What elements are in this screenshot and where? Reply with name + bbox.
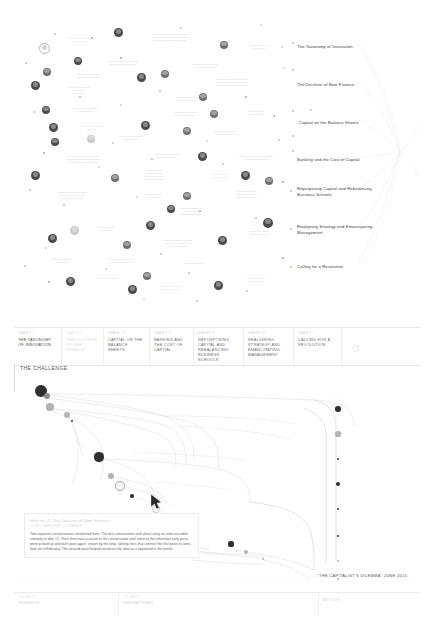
category-tick <box>290 228 292 230</box>
scatter-dot <box>112 142 114 144</box>
quote-snippet: •••• ••••••• ••••••••••••• •••••••• ••••… <box>225 277 287 283</box>
chart-node[interactable] <box>130 494 134 498</box>
avatar[interactable] <box>146 221 155 230</box>
category-label-taxonomy[interactable]: The Taxonomy of Innovation <box>297 44 377 50</box>
avatar[interactable] <box>31 171 40 180</box>
avatar[interactable] <box>265 177 273 185</box>
tab-label: Realigning Strategy and Emancipating Man… <box>248 337 289 357</box>
tab-idea-2[interactable]: Idea no. 2 The Doctrine of New Finance <box>62 328 104 365</box>
avatar[interactable] <box>123 241 131 249</box>
category-label-new-finance[interactable]: The Doctrine of New Finance <box>297 82 377 88</box>
quote-snippet: •••• ••• •••••••• •• •••••••••••• ••• ••… <box>215 190 277 199</box>
avatar[interactable] <box>183 127 191 135</box>
scatter-dot <box>206 140 208 142</box>
footer-column-seminar-ideas[interactable]: Column 02 Seminar ideas <box>119 593 319 615</box>
avatar[interactable] <box>220 41 228 49</box>
scatter-dot <box>143 298 145 300</box>
category-label-repurposing-capital[interactable]: Repurposing Capital and Rebalancing Busi… <box>297 186 375 197</box>
chart-node[interactable] <box>46 403 53 410</box>
quote-snippet: ••••••• ••• •••••••• •• ••• •••••••••• •… <box>143 239 213 248</box>
avatar[interactable] <box>128 285 137 294</box>
idea-tab-bar[interactable]: Idea no. 1 The Taxonomy of Innovation Id… <box>14 327 420 366</box>
chart-node[interactable] <box>94 452 103 461</box>
avatar[interactable] <box>31 81 40 90</box>
avatar[interactable] <box>70 226 79 235</box>
category-label-balance-sheets[interactable]: Capital on the Balance Sheets <box>299 120 381 126</box>
avatar[interactable] <box>42 106 50 114</box>
chart-node[interactable] <box>64 412 70 418</box>
avatar[interactable] <box>218 236 227 245</box>
tab-label: The Taxonomy of Innovation <box>18 337 57 347</box>
avatar[interactable] <box>87 135 95 143</box>
quote-snippet: •••• •••••••• ••• •••••••• •••••••••• <box>233 44 285 50</box>
avatar[interactable] <box>66 277 75 286</box>
quote-snippet: •••••••• ••••••••• •••• <box>163 262 225 265</box>
tab-idea-1[interactable]: Idea no. 1 The Taxonomy of Innovation <box>14 328 62 365</box>
quote-snippet: ••• ••• •••••• •••• •• ••••••••••••• •••… <box>89 258 151 264</box>
scatter-dot <box>48 281 50 283</box>
chart-node[interactable] <box>108 473 114 479</box>
tab-idea-3[interactable]: Idea no. 3 Capital on the Balance Sheets <box>104 328 150 365</box>
footer-label: Research <box>18 601 114 605</box>
chart-node[interactable] <box>335 406 341 412</box>
reset-view-button[interactable] <box>342 328 368 365</box>
tab-label: Repurposing Capital and Rebalancing Busi… <box>198 337 239 362</box>
scatter-dot <box>120 104 122 106</box>
footer-column-research[interactable]: Column 01 Research <box>14 593 119 615</box>
tab-idea-6[interactable]: Idea no. 6 Realigning Strategy and Emanc… <box>244 328 294 365</box>
category-label-revolution[interactable]: Calling for a Revolution <box>297 264 377 270</box>
avatar[interactable] <box>39 43 50 54</box>
chart-node[interactable] <box>115 481 125 491</box>
scatter-dot <box>245 96 247 98</box>
footer-index: Column 01 <box>18 596 114 599</box>
tab-index: Idea no. 4 <box>154 332 189 336</box>
quote-snippet: •••• ••••••• ••••• •••••••• ••••••••••••… <box>88 60 158 66</box>
avatar[interactable] <box>49 123 58 132</box>
category-label-cost-of-capital[interactable]: Banking and the Cost of Capital <box>297 157 381 163</box>
scatter-dot <box>79 96 81 98</box>
category-label-realigning-strategy[interactable]: Realigning Strategy and Emancipating Man… <box>297 224 375 235</box>
footer-column-article[interactable]: Article <box>319 593 420 615</box>
avatar[interactable] <box>43 68 51 76</box>
idea-detail-tooltip: Idea no. 2: The Doctrine of New Finance … <box>24 513 199 558</box>
avatar[interactable] <box>183 192 191 200</box>
avatar[interactable] <box>111 174 119 182</box>
quote-snippet: ••••••••• ••• •••••••••••••• •• •••• •• <box>192 173 248 179</box>
avatar[interactable] <box>143 272 151 280</box>
avatar[interactable] <box>214 281 223 290</box>
avatar[interactable] <box>48 234 57 243</box>
quote-snippet: •••• •••••• •• ••• •••• ••••••••• ••••••… <box>133 153 201 159</box>
category-tick <box>292 110 294 112</box>
tooltip-title: Idea no. 2: The Doctrine of New Finance <box>30 518 193 523</box>
quote-snippet: •••••••• •• •••••••••• •••• ••• •••••••• <box>31 258 93 264</box>
quote-snippet: ••••• •• •••••• ••• •• •••••••••••••• ••… <box>100 135 162 141</box>
avatar[interactable] <box>51 138 59 146</box>
avatar[interactable] <box>114 28 123 37</box>
scatter-dot <box>105 268 107 270</box>
chart-node[interactable] <box>337 560 339 562</box>
scatter-dot <box>54 33 56 35</box>
quote-snippet: ••• •••••• •••••• •• ••• ••••••••• •• ••… <box>56 73 122 79</box>
quote-snippet: ••• ••••• ••••• •••••• •••••••• ••••••••… <box>191 130 259 136</box>
refresh-icon <box>351 344 360 353</box>
quote-snippet: •••• ••••••••• ••••• •••••••••••••• ••••… <box>50 86 108 95</box>
chart-node[interactable] <box>228 541 233 546</box>
scatter-dot <box>63 204 65 206</box>
avatar[interactable] <box>141 121 150 130</box>
chart-node[interactable] <box>335 431 340 436</box>
quote-snippet: ••• ••• ••••• ••• ••••••• •• ••• •••••••… <box>215 155 297 161</box>
chart-node[interactable] <box>337 578 339 580</box>
tab-idea-7[interactable]: Idea no. 7 Calling for a Revolution <box>294 328 342 365</box>
tab-index: Idea no. 7 <box>298 332 337 336</box>
avatar[interactable] <box>263 218 273 228</box>
avatar[interactable] <box>137 73 146 82</box>
avatar[interactable] <box>161 70 169 78</box>
quote-snippet: •••• ••• •••• ••• •••••••• •• ••••••• ••… <box>44 155 122 164</box>
quote-snippet: •• ••••• •• •••• ••••• •••••••••• •••• <box>60 125 122 131</box>
tab-idea-5[interactable]: Idea no. 5 Repurposing Capital and Rebal… <box>194 328 244 365</box>
avatar[interactable] <box>74 57 82 65</box>
scatter-dot <box>159 90 161 92</box>
category-tick <box>292 42 294 44</box>
quote-snippet: •••• ••••• •••• ••••••••••••• ••••••• ••… <box>126 169 182 181</box>
tab-idea-4[interactable]: Idea no. 4 Banking and the Cost of Capit… <box>150 328 194 365</box>
